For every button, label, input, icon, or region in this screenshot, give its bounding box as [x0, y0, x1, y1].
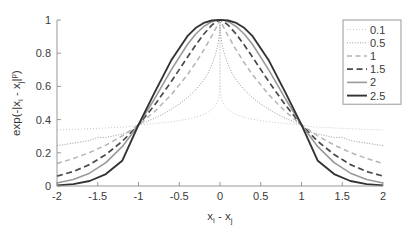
y-tick-label: 0	[45, 180, 51, 192]
curves-group	[57, 20, 383, 185]
y-tick-label: 0.4	[36, 114, 51, 126]
x-tick-label: -1.5	[88, 190, 107, 202]
plot-canvas: -2-1.5-1-0.500.511.52 00.20.40.60.81 0.1…	[0, 0, 415, 237]
y-tick-label: 0.8	[36, 47, 51, 59]
x-tick-label: 1.5	[335, 190, 350, 202]
x-tick-label: 0.5	[253, 190, 268, 202]
axes-group	[57, 20, 383, 186]
legend-label-2.5[interactable]: 2.5	[370, 90, 385, 102]
y-tick-label: 0.2	[36, 147, 51, 159]
x-tick-label: -0.5	[170, 190, 189, 202]
y-axis-title: exp(-|xi - xj|p)	[9, 70, 25, 136]
x-tick-label: 0	[217, 190, 223, 202]
chart-figure: -2-1.5-1-0.500.511.52 00.20.40.60.81 0.1…	[0, 0, 415, 237]
x-tick-label: -2	[52, 190, 62, 202]
x-tick-label: -1	[134, 190, 144, 202]
legend[interactable]: 0.10.511.522.5	[343, 20, 401, 104]
x-axis-title: xi - xj	[207, 210, 233, 225]
legend-label-2[interactable]: 2	[370, 76, 376, 88]
axis-lines	[57, 20, 383, 186]
curve-p-2.5	[57, 20, 383, 185]
x-tick-labels: -2-1.5-1-0.500.511.52	[52, 182, 386, 202]
curve-p-0.1	[57, 20, 383, 130]
legend-label-0.1[interactable]: 0.1	[370, 24, 385, 36]
legend-label-1.5[interactable]: 1.5	[370, 63, 385, 75]
y-tick-label: 1	[45, 14, 51, 26]
y-tick-label: 0.6	[36, 80, 51, 92]
legend-label-1[interactable]: 1	[370, 50, 376, 62]
x-tick-label: 1	[298, 190, 304, 202]
x-tick-label: 2	[380, 190, 386, 202]
legend-label-0.5[interactable]: 0.5	[370, 37, 385, 49]
